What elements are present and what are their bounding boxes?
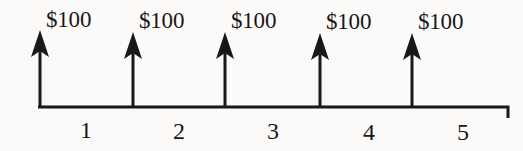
cash-amount-label-1: $100	[46, 8, 91, 31]
period-label-3: 3	[264, 119, 282, 143]
period-label-1: 1	[77, 118, 95, 142]
time-axis-line	[38, 107, 508, 118]
cash-flow-arrow-2	[124, 32, 142, 107]
cash-flow-arrow-3	[216, 32, 234, 107]
period-label-4: 4	[360, 120, 378, 144]
cash-flow-timeline-figure: $100 $100 $100 $100 $100 1 2 3 4 5	[0, 0, 523, 151]
cash-amount-label-2: $100	[139, 9, 184, 32]
cash-amount-label-5: $100	[418, 10, 463, 33]
cash-flow-arrow-4	[311, 33, 329, 107]
cash-amount-label-3: $100	[231, 9, 276, 32]
period-label-5: 5	[454, 120, 472, 144]
cash-amount-label-4: $100	[326, 10, 371, 33]
cash-flow-arrow-1	[31, 30, 49, 107]
cash-flow-arrow-5	[403, 33, 421, 107]
period-label-2: 2	[170, 119, 188, 143]
